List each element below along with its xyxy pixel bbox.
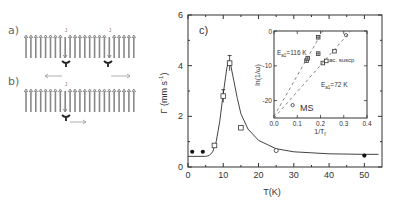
data-point <box>274 148 278 152</box>
inset-x-tick-label: 0.1 <box>293 120 302 127</box>
spin-up-icon <box>117 89 121 112</box>
panel-a-label: a) <box>8 24 19 37</box>
spin-row-a <box>24 35 135 58</box>
data-point <box>239 125 244 130</box>
spin-up-icon <box>98 35 102 58</box>
motion-arrow-icon <box>111 74 130 78</box>
x-tick-label: 30 <box>289 170 299 180</box>
data-point <box>362 154 366 158</box>
main-panel-label: c) <box>199 24 208 36</box>
y-tick-label: 6 <box>178 10 183 20</box>
spin-up-icon <box>59 35 63 58</box>
domain-wall-icon <box>62 115 70 121</box>
spin-up-icon <box>127 89 131 112</box>
defect-label: J <box>65 81 68 87</box>
spin-up-icon <box>39 35 43 58</box>
panel-b-label: b) <box>8 75 19 88</box>
main-y-axis-label: Γ (mm s-1) <box>158 73 169 114</box>
inset-y-tick-label: -20 <box>263 97 273 104</box>
spin-up-icon <box>83 35 87 58</box>
spin-up-icon <box>34 35 38 58</box>
spin-up-icon <box>78 35 82 58</box>
spin-up-icon <box>132 35 136 58</box>
data-point <box>190 150 194 154</box>
spin-up-icon <box>44 89 48 112</box>
defect-label: J <box>109 27 112 33</box>
y-tick-label: 4 <box>178 61 183 71</box>
inset-x-tick-label: 0.0 <box>269 120 278 127</box>
inset-x-tick-label: 0.4 <box>362 120 371 127</box>
spin-up-icon <box>88 35 92 58</box>
figure: a) b) JJJ 010203040500246 c) T(K) Γ (mm … <box>0 0 401 205</box>
motion-arrow-icon <box>45 74 62 78</box>
x-tick-label: 40 <box>324 170 334 180</box>
schematic: a) b) JJJ <box>8 24 136 124</box>
spin-up-icon <box>122 35 126 58</box>
y-tick-label: 2 <box>178 111 183 121</box>
x-tick-label: 50 <box>359 170 369 180</box>
spin-row-b <box>24 89 135 112</box>
spin-up-icon <box>49 35 53 58</box>
domain-wall-markers: JJJ <box>45 27 130 124</box>
data-point <box>325 59 329 63</box>
annotation-ac-suscp: ac. suscp <box>329 57 355 63</box>
spin-up-icon <box>24 35 28 58</box>
spin-up-icon <box>112 35 116 58</box>
spin-up-icon <box>39 89 43 112</box>
data-point <box>221 94 226 99</box>
inset-y-axis-label: ln(1/ω) <box>254 64 262 85</box>
x-tick-label: 10 <box>218 170 228 180</box>
spin-up-icon <box>29 35 33 58</box>
spin-up-icon <box>112 89 116 112</box>
spin-up-icon <box>117 35 121 58</box>
inset-y-tick-label: 0 <box>268 28 272 35</box>
domain-wall-icon <box>62 61 70 67</box>
inset-y-tick-label: -10 <box>263 62 273 69</box>
spin-up-icon <box>93 35 97 58</box>
spin-down-icon <box>108 37 112 58</box>
inset-x-tick-label: 0.3 <box>339 120 348 127</box>
spin-down-icon <box>63 37 67 58</box>
data-point <box>201 150 205 154</box>
spin-up-icon <box>34 89 38 112</box>
spin-up-icon <box>24 89 28 112</box>
main-x-axis-label: T(K) <box>263 187 281 197</box>
spin-up-icon <box>132 89 136 112</box>
spin-up-icon <box>73 89 77 112</box>
defect-label: J <box>65 27 68 33</box>
inset-x-axis-label: 1/Tf <box>314 128 326 137</box>
spin-up-icon <box>103 89 107 112</box>
spin-up-icon <box>54 35 58 58</box>
spin-up-icon <box>73 35 77 58</box>
spin-down-icon <box>63 91 67 112</box>
x-tick-label: 20 <box>254 170 264 180</box>
spin-up-icon <box>49 89 53 112</box>
spin-up-icon <box>78 89 82 112</box>
inset-plot-frame <box>274 31 367 118</box>
y-tick-label: 0 <box>178 162 183 172</box>
spin-up-icon <box>83 89 87 112</box>
spin-up-icon <box>127 35 131 58</box>
motion-arrow-icon <box>70 120 86 124</box>
data-point <box>227 61 232 66</box>
spin-up-icon <box>122 89 126 112</box>
x-tick-label: 0 <box>185 170 190 180</box>
data-point <box>212 143 217 148</box>
spin-up-icon <box>93 89 97 112</box>
spin-up-icon <box>88 89 92 112</box>
spin-up-icon <box>54 89 58 112</box>
data-point <box>291 104 294 107</box>
domain-wall-icon <box>104 61 112 67</box>
spin-up-icon <box>108 89 112 112</box>
inset-x-tick-label: 0.2 <box>316 120 325 127</box>
spin-up-icon <box>44 35 48 58</box>
inset-chart: 0.00.10.20.30.40-10-20 ln(1/ω) 1/Tf Ea1=… <box>254 28 372 138</box>
spin-up-icon <box>98 89 102 112</box>
spin-up-icon <box>103 35 107 58</box>
spin-up-icon <box>29 89 33 112</box>
spin-up-icon <box>68 89 72 112</box>
spin-up-icon <box>68 35 72 58</box>
spin-up-icon <box>59 89 63 112</box>
annotation-ms: MS <box>300 103 314 113</box>
data-point <box>316 52 320 56</box>
